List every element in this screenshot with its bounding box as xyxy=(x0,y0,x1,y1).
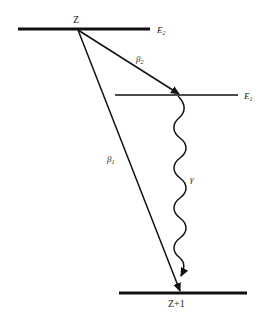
beta1-label: β1 xyxy=(106,154,114,165)
nuclide-z-plus-1-label: Z+1 xyxy=(168,298,185,309)
beta1-arrow xyxy=(78,30,180,291)
level-e1-label: E1 xyxy=(243,91,253,102)
level-e2-label: E2 xyxy=(156,25,166,36)
decay-scheme-diagram: Z E2 E1 Z+1 β2 β1 γ xyxy=(0,0,268,320)
nuclide-z-label: Z xyxy=(73,14,79,25)
gamma-label: γ xyxy=(190,174,194,184)
beta2-arrow xyxy=(78,30,179,94)
beta2-label: β2 xyxy=(135,54,143,65)
gamma-wavy-line xyxy=(174,96,186,276)
